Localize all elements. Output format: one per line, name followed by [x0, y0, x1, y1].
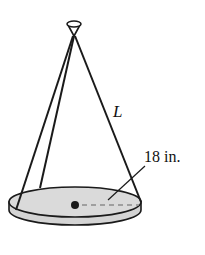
hanger-line-left-inner — [40, 36, 74, 188]
hanger-line-left-outer — [16, 36, 73, 210]
diagram-canvas: L 18 in. — [0, 0, 205, 255]
hanger-line-right — [75, 36, 141, 202]
center-point — [71, 201, 79, 209]
radius-label: 18 in. — [144, 148, 180, 166]
hook-ring — [67, 21, 81, 27]
cone-disk-figure — [0, 0, 205, 255]
slant-length-label: L — [113, 102, 122, 122]
